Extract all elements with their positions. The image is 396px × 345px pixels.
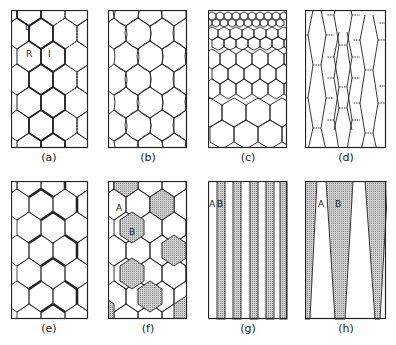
hexagonal-grains-diagram: L R I [11,10,89,150]
panel-h: A B [305,181,387,321]
caption-g: (g) [228,322,268,335]
panel-a: L R I [11,10,89,150]
serrated-grains-diagram [108,10,188,150]
label-L: L [25,22,30,32]
label-B: B [217,199,223,209]
tapered-wedges-diagram: A B [305,181,387,321]
caption-f: (f) [128,322,168,335]
thick-boundary-grains-diagram [11,181,89,321]
label-A: A [318,199,325,209]
panel-e [11,181,89,321]
caption-b: (b) [128,151,168,164]
caption-h: (h) [326,322,366,335]
grain-size-gradient-diagram [208,10,288,150]
label-R: R [26,49,32,59]
lamellar-bands-diagram: A B [208,181,288,321]
panel-d [305,10,387,150]
panel-c [208,10,288,150]
two-phase-grains-diagram: A B [108,181,188,321]
caption-e: (e) [29,322,69,335]
label-A: A [116,203,123,213]
caption-a: (a) [29,151,69,164]
label-A: A [209,199,216,209]
label-B: B [335,199,341,209]
caption-c: (c) [228,151,268,164]
panel-b [108,10,188,150]
panel-g: A B [208,181,288,321]
columnar-grains-diagram [305,10,387,150]
label-I: I [48,49,51,59]
panel-f: A B [108,181,188,321]
label-B: B [129,227,135,237]
caption-d: (d) [326,151,366,164]
